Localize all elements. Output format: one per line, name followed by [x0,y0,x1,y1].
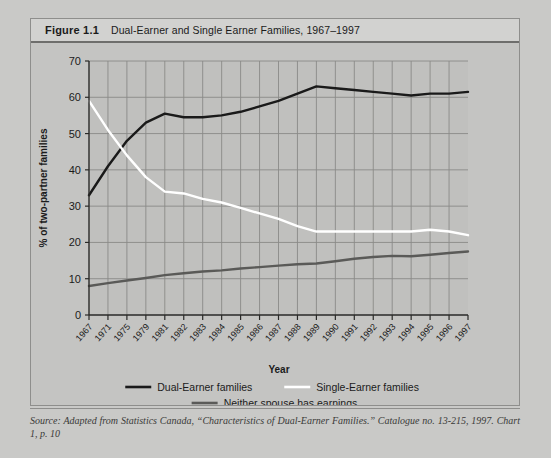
y-axis-tick-labels: 010203040506070 [69,55,81,321]
x-axis-tick-label: 1982 [168,322,189,344]
legend-label: Neither spouse has earnings [224,397,358,405]
x-axis-tick-labels: 1967197119751979198119821983198419851986… [74,322,474,344]
source-divider [30,408,520,409]
x-axis-tick-label: 1975 [112,322,133,344]
y-axis-tick-label: 0 [75,309,81,321]
y-axis-tick-label: 60 [69,91,81,103]
x-axis-tick-label: 1991 [339,322,360,344]
x-axis-tick-label: 1967 [74,322,95,344]
x-axis-tick-label: 1981 [149,322,170,344]
figure-box: Figure 1.1 Dual-Earner and Single Earner… [30,18,520,406]
x-axis-tick-label: 1992 [358,322,379,344]
x-axis-tick-label: 1985 [225,322,246,344]
y-axis-tick-label: 70 [69,55,81,67]
x-axis-tick-label: 1989 [301,322,322,344]
chart-legend: Dual-Earner familiesSingle-Earner famili… [125,381,419,405]
y-axis-label: % of two-partner families [38,128,49,247]
x-axis-tick-label: 1995 [415,322,436,344]
legend-label: Single-Earner families [316,381,419,393]
x-axis-tick-label: 1987 [263,322,284,344]
x-axis-tick-label: 1988 [282,322,303,344]
y-axis-tick-label: 20 [69,236,81,248]
y-axis-tick-label: 50 [69,128,81,140]
x-axis-tick-label: 1996 [434,322,455,344]
x-axis-tick-label: 1979 [131,322,152,344]
x-axis-tick-label: 1983 [187,322,208,344]
x-axis-tick-label: 1984 [206,322,227,344]
source-note: Source: Adapted from Statistics Canada, … [30,414,520,440]
x-axis-tick-label: 1994 [396,322,417,344]
y-axis-tick-label: 30 [69,200,81,212]
x-axis-tick-label: 1997 [453,322,474,344]
line-chart: 010203040506070 196719711975197919811982… [31,43,521,405]
figure-title: Dual-Earner and Single Earner Families, … [111,24,360,36]
chart-canvas: 010203040506070 196719711975197919811982… [31,43,521,405]
x-axis-tick-label: 1990 [320,322,341,344]
x-axis-ticks [89,315,468,320]
figure-number: Figure 1.1 [45,24,99,36]
x-axis-tick-label: 1993 [377,322,398,344]
y-axis-tick-label: 40 [69,164,81,176]
x-axis-label: Year [268,364,289,375]
x-axis-tick-label: 1971 [93,322,114,344]
figure-header: Figure 1.1 Dual-Earner and Single Earner… [31,19,519,43]
legend-label: Dual-Earner families [157,381,252,393]
y-axis-tick-label: 10 [69,273,81,285]
x-axis-tick-label: 1986 [244,322,265,344]
